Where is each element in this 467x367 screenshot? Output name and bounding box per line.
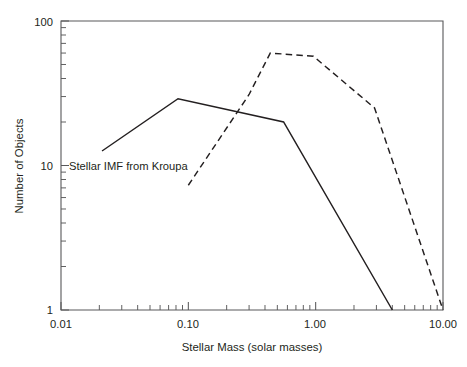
x-tick-label-0-01: 0.01 xyxy=(50,318,72,330)
y-tick-label-1: 1 xyxy=(47,304,53,316)
x-tick-label-1-00: 1.00 xyxy=(304,318,326,330)
y-axis-title: Number of Objects xyxy=(13,118,25,213)
data-series-group xyxy=(102,53,443,310)
y-tick-labels: 100 10 1 xyxy=(34,16,53,316)
annotation-stellar-imf-kroupa: Stellar IMF from Kroupa xyxy=(69,160,189,172)
y-axis-ticks xyxy=(61,21,69,310)
x-axis-title: Stellar Mass (solar masses) xyxy=(182,341,323,353)
log-log-line-chart: 100 10 1 0.01 0.10 1.00 10.00 Stellar Ma… xyxy=(0,0,467,367)
y-tick-label-10: 10 xyxy=(41,160,53,172)
x-tick-labels: 0.01 0.10 1.00 10.00 xyxy=(50,318,457,330)
x-tick-label-0-10: 0.10 xyxy=(177,318,199,330)
x-tick-label-10-00: 10.00 xyxy=(429,318,457,330)
x-axis-ticks xyxy=(61,302,443,310)
series-line-stellar-imf-kroupa xyxy=(102,99,392,310)
figure-container: 100 10 1 0.01 0.10 1.00 10.00 Stellar Ma… xyxy=(0,0,467,367)
y-tick-label-100: 100 xyxy=(34,16,53,28)
series-line-observed-distribution xyxy=(188,53,443,310)
